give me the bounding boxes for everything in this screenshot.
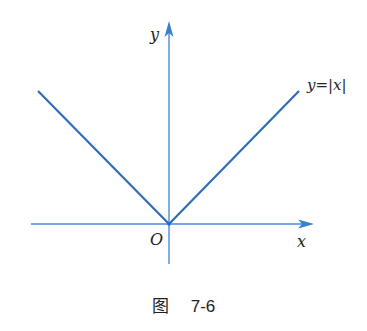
figure-caption: 图7-6: [0, 292, 367, 317]
coordinate-plot: [0, 0, 367, 331]
x-axis-label: x: [297, 234, 306, 250]
origin-label: O: [150, 232, 163, 248]
caption-number: 7-6: [191, 297, 216, 317]
function-label: y=|x|: [307, 78, 347, 93]
y-axis-label: y: [150, 27, 159, 43]
caption-prefix: 图: [152, 292, 169, 317]
origin-point: [167, 222, 171, 226]
